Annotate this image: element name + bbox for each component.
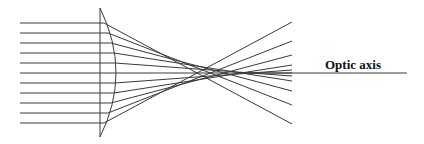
spherical-aberration-diagram: Optic axis (0, 0, 424, 144)
light-ray (20, 63, 292, 76)
light-ray (20, 70, 292, 83)
light-ray (20, 43, 292, 91)
light-ray (20, 55, 292, 103)
optic-axis-label: Optic axis (325, 57, 381, 72)
